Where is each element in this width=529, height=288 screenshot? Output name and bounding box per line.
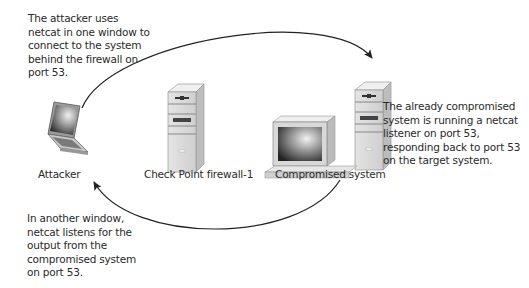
- server-tower-icon: [168, 84, 204, 172]
- note-attacker-connect: The attacker uses netcat in one window t…: [28, 12, 150, 80]
- label-attacker: Attacker: [38, 168, 80, 180]
- desktop-computer-icon: [265, 82, 391, 178]
- label-compromised-system: Compromised system: [275, 168, 386, 180]
- laptop-icon: [48, 102, 88, 155]
- note-attacker-listen: In another window, netcat listens for th…: [27, 212, 136, 280]
- label-firewall: Check Point firewall-1: [144, 168, 253, 180]
- note-compromised-listener: The already compromised system is runnin…: [383, 100, 520, 168]
